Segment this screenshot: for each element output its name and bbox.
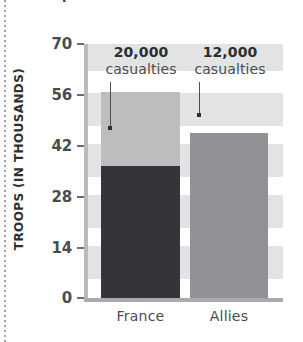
annotation-france-leader-line [110, 82, 111, 127]
bar-segment-france-troops [101, 166, 180, 298]
bar-segment-france-casualties [101, 92, 180, 166]
x-axis-baseline [84, 298, 283, 302]
y-axis-spine [84, 44, 88, 298]
y-tick-mark [77, 196, 84, 198]
y-tick-mark [77, 145, 84, 147]
annotation-france-number: 20,000 [97, 44, 185, 60]
annotation-france-word: casualties [97, 61, 185, 77]
annotation-allies-number: 12,000 [186, 44, 274, 60]
y-tick-label-14: 14 [38, 239, 72, 257]
y-tick-label-70: 70 [38, 35, 72, 53]
y-tick-label-42: 42 [38, 137, 72, 155]
x-tick-label-france: France [101, 308, 180, 324]
y-tick-mark [77, 247, 84, 249]
y-tick-label-0: 0 [38, 289, 72, 307]
annotation-allies: 12,000 casualties [186, 44, 274, 77]
left-dotted-divider [4, 0, 6, 342]
chart-title-clipped: Troops and Casualties at Waterloo [14, 0, 303, 3]
y-tick-label-28: 28 [38, 188, 72, 206]
annotation-allies-word: casualties [186, 61, 274, 77]
x-tick-label-allies: Allies [190, 308, 268, 324]
chart-figure: Troops and Casualties at Waterloo 70 56 … [0, 0, 303, 342]
annotation-allies-leader-dot [197, 113, 201, 117]
annotation-allies-leader-line [199, 82, 200, 114]
bar-segment-allies-troops [190, 133, 268, 298]
y-tick-mark [77, 297, 84, 299]
annotation-france-leader-dot [108, 126, 112, 130]
y-tick-mark [77, 43, 84, 45]
y-tick-label-56: 56 [38, 86, 72, 104]
y-tick-mark [77, 94, 84, 96]
bar-france [101, 92, 180, 298]
y-axis-title: TROOPS (IN THOUSANDS) [12, 54, 26, 264]
annotation-france: 20,000 casualties [97, 44, 185, 77]
bar-allies [190, 133, 268, 298]
